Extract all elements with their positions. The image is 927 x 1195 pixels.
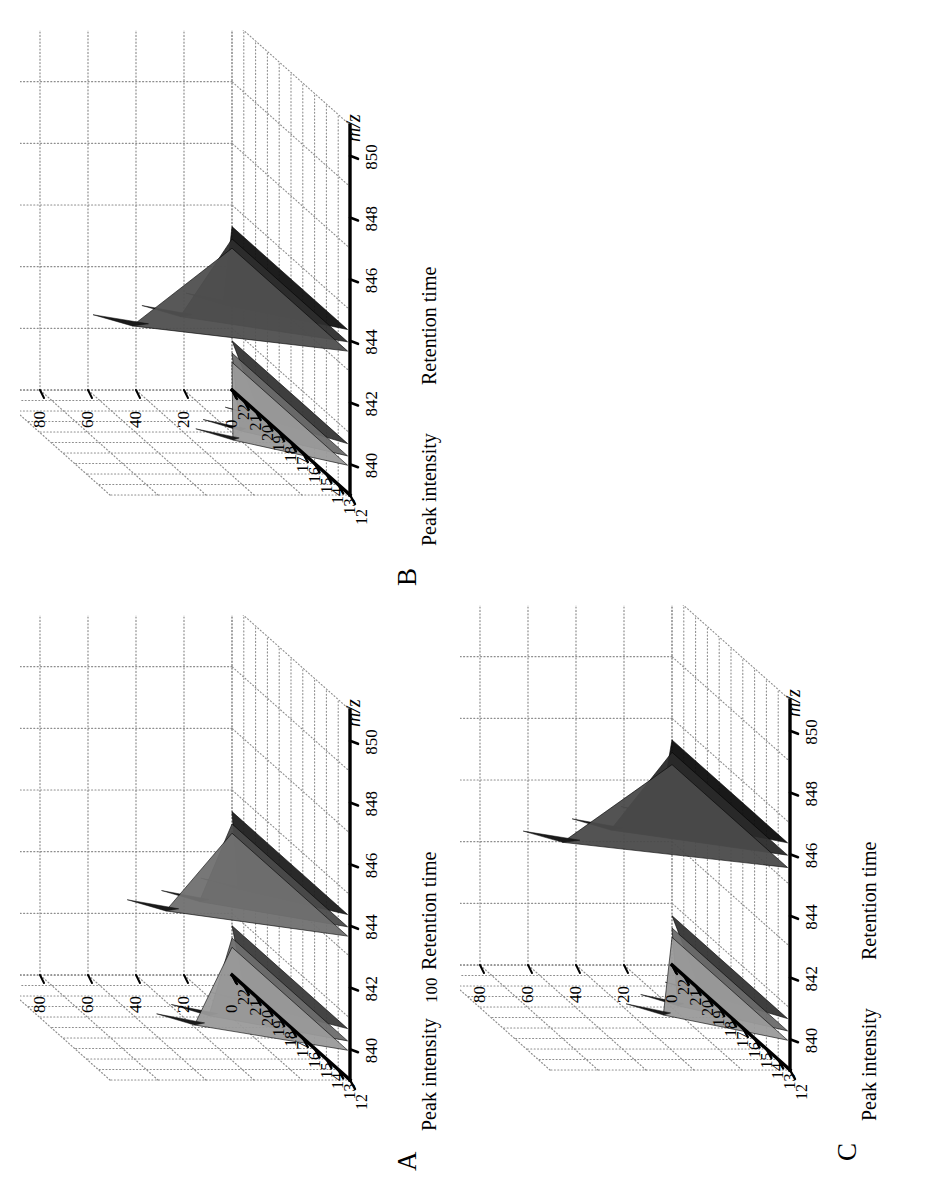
x-tick-label: 850 (362, 729, 382, 755)
plot-b-canvas (20, 30, 450, 590)
z-tick-label: 80 (470, 986, 490, 1003)
z-tick-label: 20 (174, 411, 194, 428)
panel-a-letter: A (392, 1152, 423, 1172)
z-tick-label: 0 (222, 1005, 242, 1014)
x-tick-label: 848 (362, 791, 382, 817)
z-tick-label: 100 (0, 403, 2, 429)
z-tick-label: 0 (662, 995, 682, 1004)
panel-b: B Peak intensity Retention time m/z 8408… (20, 30, 450, 590)
x-tick-label: 850 (802, 719, 822, 745)
z-tick-label: 80 (30, 996, 50, 1013)
figure-stage: A Peak intensity Retention time m/z 8408… (0, 0, 927, 1195)
panel-b-letter: B (392, 568, 423, 586)
z-tick-label: 20 (174, 996, 194, 1013)
panel-b-z-axis-title: Peak intensity (418, 433, 441, 546)
panel-b-x-axis-title: m/z (342, 114, 365, 142)
z-tick-label: 40 (566, 986, 586, 1003)
panel-c-x-axis-title: m/z (782, 689, 805, 717)
y-tick-label: 12 (353, 509, 371, 525)
panel-a: A Peak intensity Retention time m/z 8408… (20, 615, 450, 1175)
y-tick-label: 12 (793, 1084, 811, 1100)
z-tick-label: 40 (126, 996, 146, 1013)
z-tick-label: 100 (422, 978, 442, 1004)
z-tick-label: 20 (614, 986, 634, 1003)
plot-a-canvas (20, 615, 450, 1175)
z-tick-label: 0 (222, 420, 242, 429)
x-tick-label: 844 (362, 329, 382, 355)
x-tick-label: 844 (362, 914, 382, 940)
z-tick-label: 60 (78, 996, 98, 1013)
panel-c-y-axis-title: Retention time (858, 842, 881, 960)
x-tick-label: 846 (802, 843, 822, 869)
x-tick-label: 844 (802, 904, 822, 930)
y-tick-label: 12 (353, 1094, 371, 1110)
x-tick-label: 848 (362, 206, 382, 232)
x-tick-label: 846 (362, 853, 382, 879)
z-tick-label: 80 (30, 411, 50, 428)
x-tick-label: 842 (802, 966, 822, 992)
z-tick-label: 60 (518, 986, 538, 1003)
panel-a-z-axis-title: Peak intensity (418, 1018, 441, 1131)
z-tick-label: 40 (126, 411, 146, 428)
panel-b-y-axis-title: Retention time (418, 267, 441, 385)
x-tick-label: 840 (362, 453, 382, 479)
z-tick-label: 60 (78, 411, 98, 428)
panel-a-y-axis-title: Retention time (418, 852, 441, 970)
z-tick-label: 100 (0, 988, 2, 1014)
panel-a-x-axis-title: m/z (342, 699, 365, 727)
x-tick-label: 848 (802, 781, 822, 807)
x-tick-label: 842 (362, 391, 382, 417)
panel-c-letter: C (832, 1143, 863, 1161)
plot-c-canvas (460, 605, 890, 1165)
panel-c: C Peak intensity Retention time m/z 8408… (460, 605, 890, 1165)
x-tick-label: 850 (362, 144, 382, 170)
panel-c-z-axis-title: Peak intensity (858, 1008, 881, 1121)
x-tick-label: 846 (362, 268, 382, 294)
x-tick-label: 840 (362, 1038, 382, 1064)
x-tick-label: 842 (362, 976, 382, 1002)
x-tick-label: 840 (802, 1028, 822, 1054)
